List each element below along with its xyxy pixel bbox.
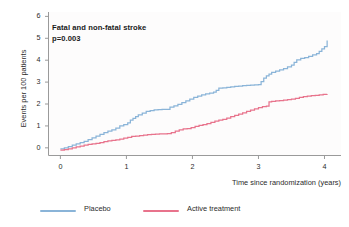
- y-tick-marks: [45, 16, 49, 147]
- y-tick-label: 1: [27, 121, 41, 130]
- annotation-title: Fatal and non-fatal stroke: [52, 23, 146, 34]
- x-tick-label: 1: [119, 162, 133, 171]
- legend-label: Placebo: [84, 204, 111, 213]
- y-tick-label: 5: [27, 33, 41, 42]
- y-tick-label: 2: [27, 99, 41, 108]
- x-axis-label: Time since randomization (years): [0, 178, 341, 187]
- y-tick-label: 3: [27, 77, 41, 86]
- annotation-pvalue: p=0.003: [52, 34, 146, 45]
- x-tick-label: 3: [251, 162, 265, 171]
- x-tick-marks: [60, 156, 324, 160]
- chart-annotation: Fatal and non-fatal stroke p=0.003: [52, 23, 146, 44]
- legend-label: Active treatment: [187, 204, 240, 213]
- y-tick-label: 4: [27, 55, 41, 64]
- chart-legend: PlaceboActive treatment: [0, 203, 349, 221]
- legend-color-swatch: [40, 210, 76, 212]
- x-tick-label: 0: [53, 162, 67, 171]
- x-tick-label: 2: [185, 162, 199, 171]
- legend-color-swatch: [143, 210, 179, 212]
- y-tick-label: 6: [27, 11, 41, 20]
- y-tick-label: 0: [27, 143, 41, 152]
- chart-figure: Fatal and non-fatal stroke p=0.003 Event…: [0, 0, 349, 227]
- x-tick-label: 4: [317, 162, 331, 171]
